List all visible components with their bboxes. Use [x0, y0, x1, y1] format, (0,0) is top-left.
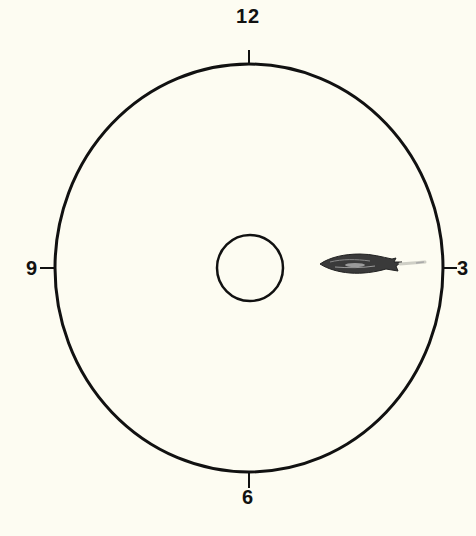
- diagram-canvas: [0, 0, 476, 536]
- label-12: 12: [236, 6, 260, 26]
- fish-icon: [320, 254, 425, 273]
- clock-diagram: 12 9 3 6: [0, 0, 476, 536]
- inner-ring: [217, 235, 283, 301]
- label-3: 3: [457, 258, 468, 278]
- label-6: 6: [242, 487, 253, 507]
- label-9: 9: [26, 258, 37, 278]
